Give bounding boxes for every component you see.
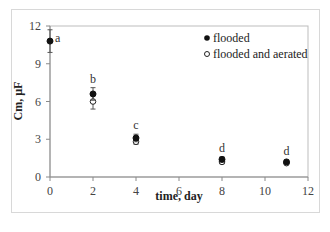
- x-tick-label: 12: [302, 184, 314, 198]
- significance-label: c: [133, 118, 138, 132]
- y-tick-label: 12: [29, 19, 41, 33]
- point-flooded: [90, 91, 96, 97]
- x-tick-label: 8: [219, 184, 225, 198]
- point-flooded: [219, 156, 225, 162]
- point-flooded: [47, 38, 53, 44]
- legend-marker-open: [205, 52, 210, 57]
- y-axis-title: Cm, µF: [11, 82, 25, 121]
- y-tick-label: 6: [35, 95, 41, 109]
- x-tick-label: 10: [259, 184, 271, 198]
- legend-item: flooded and aerated: [205, 47, 308, 61]
- significance-label: a: [55, 31, 61, 45]
- legend-marker-filled: [204, 35, 210, 41]
- y-tick-label: 0: [35, 170, 41, 184]
- point-flooded: [133, 135, 139, 141]
- y-tick-label: 3: [35, 132, 41, 146]
- x-tick-label: 2: [90, 184, 96, 198]
- x-tick-label: 4: [133, 184, 139, 198]
- chart: 024681012036912 abcdd floodedflooded and…: [0, 0, 330, 232]
- x-tick-label: 0: [47, 184, 53, 198]
- y-tick-label: 9: [35, 57, 41, 71]
- legend-label: flooded and aerated: [213, 47, 308, 61]
- significance-label: d: [284, 144, 290, 158]
- legend-label: flooded: [213, 31, 250, 45]
- significance-label: d: [219, 141, 225, 155]
- point-flooded: [284, 159, 290, 165]
- significance-label: b: [90, 72, 96, 86]
- x-axis-title: time, day: [155, 189, 202, 203]
